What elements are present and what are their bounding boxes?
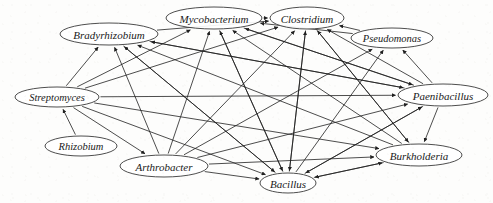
- graph-node-arthrobacter[interactable]: Arthrobacter: [120, 155, 208, 177]
- node-label-paenibacillus: Paenibacillus: [412, 90, 474, 102]
- node-label-burkholderia: Burkholderia: [390, 150, 449, 162]
- graph-edge: [209, 157, 374, 164]
- node-layer: BradyrhizobiumMycobacteriumClostridiumPs…: [15, 7, 488, 193]
- graph-edge: [66, 47, 98, 86]
- node-label-bradyrhizobium: Bradyrhizobium: [73, 29, 144, 41]
- graph-node-rhizobium[interactable]: Rhizobium: [45, 136, 117, 156]
- graph-canvas: BradyrhizobiumMycobacteriumClostridiumPs…: [0, 0, 493, 203]
- graph-edge: [205, 172, 259, 179]
- graph-edge: [289, 30, 305, 170]
- node-label-streptomyces: Streptomyces: [29, 92, 85, 103]
- graph-edge: [340, 26, 360, 31]
- graph-node-clostridium[interactable]: Clostridium: [270, 7, 344, 29]
- node-label-arthrobacter: Arthrobacter: [134, 161, 193, 173]
- graph-node-streptomyces[interactable]: Streptomyces: [15, 87, 99, 107]
- graph-node-burkholderia[interactable]: Burkholderia: [376, 144, 462, 166]
- graph-node-bacillus[interactable]: Bacillus: [260, 173, 316, 193]
- graph-edge: [94, 103, 379, 149]
- graph-edge: [63, 109, 75, 134]
- graph-edge: [168, 31, 209, 153]
- graph-edge: [197, 104, 407, 157]
- graph-edge: [403, 50, 432, 83]
- node-label-rhizobium: Rhizobium: [58, 141, 104, 152]
- node-label-mycobacterium: Mycobacterium: [178, 13, 248, 25]
- node-label-pseudomonas: Pseudomonas: [362, 33, 421, 44]
- graph-edge: [315, 163, 384, 178]
- network-diagram-figure: BradyrhizobiumMycobacteriumClostridiumPs…: [0, 0, 493, 203]
- graph-edge: [123, 46, 274, 172]
- graph-edge: [115, 47, 159, 153]
- graph-node-mycobacterium[interactable]: Mycobacterium: [166, 7, 262, 29]
- graph-edge: [424, 107, 438, 141]
- graph-node-pseudomonas[interactable]: Pseudomonas: [351, 28, 433, 48]
- graph-node-bradyrhizobium[interactable]: Bradyrhizobium: [60, 23, 158, 45]
- node-label-bacillus: Bacillus: [270, 178, 306, 190]
- graph-node-paenibacillus[interactable]: Paenibacillus: [398, 84, 488, 106]
- node-label-clostridium: Clostridium: [281, 13, 334, 25]
